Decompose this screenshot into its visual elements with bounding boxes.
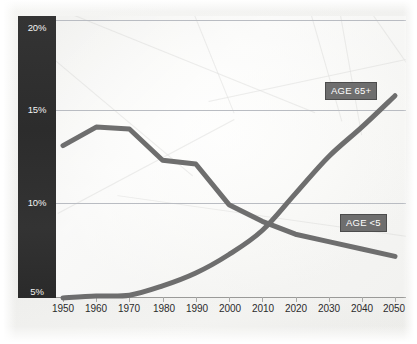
series-line-age-under-5 (63, 127, 395, 256)
series-badge-age-65-plus: AGE 65+ (325, 82, 377, 100)
series-layer (0, 0, 417, 344)
chart-figure: 20% 15% 10% 5% 1950 1960 1970 1980 1990 … (0, 0, 417, 344)
series-badge-age-under-5: AGE <5 (340, 214, 387, 232)
